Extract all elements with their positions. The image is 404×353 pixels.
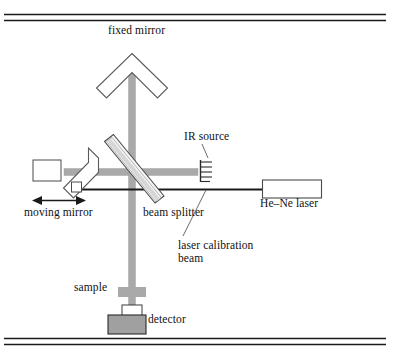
ir-source-leader	[202, 144, 208, 158]
moving-mirror-mount-box	[33, 160, 61, 181]
top-rule	[4, 15, 386, 21]
label-moving-mirror: moving mirror	[24, 206, 93, 219]
detector	[108, 305, 146, 334]
label-beam-splitter: beam splitter	[143, 206, 204, 219]
label-laser-calibration-beam-line2: beam	[178, 252, 203, 264]
label-detector: detector	[148, 313, 186, 326]
moving-mirror-laser-pickoff	[72, 182, 82, 192]
label-hene-laser: He–Ne laser	[260, 197, 318, 210]
ir-beam-group	[64, 64, 198, 312]
label-laser-calibration-beam: laser calibrationbeam	[178, 239, 253, 265]
interferometer-diagram	[0, 0, 404, 353]
label-fixed-mirror: fixed mirror	[108, 24, 165, 37]
label-ir-source: IR source	[184, 130, 229, 143]
sample	[118, 287, 146, 297]
hene-laser	[263, 180, 322, 198]
bottom-rule	[4, 339, 386, 345]
moving-mirror-travel-arrow	[32, 196, 86, 205]
label-sample: sample	[74, 281, 107, 294]
figure-container: fixed mirror IR source He–Ne laser movin…	[0, 0, 404, 353]
label-laser-calibration-beam-line1: laser calibration	[178, 239, 253, 251]
ir-source	[201, 144, 213, 182]
detector-body	[108, 315, 146, 334]
